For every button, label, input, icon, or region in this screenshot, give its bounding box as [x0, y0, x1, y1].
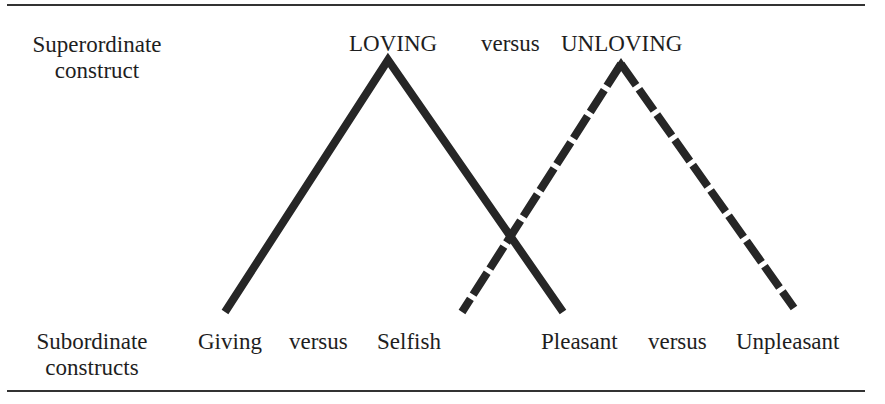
connector-lines [0, 0, 885, 404]
construct-hierarchy-diagram: Superordinate construct Subordinate cons… [0, 0, 885, 404]
dashed-triangle-right-line [621, 64, 794, 308]
dashed-triangle-apex [613, 58, 629, 70]
solid-triangle-lines [225, 60, 563, 312]
